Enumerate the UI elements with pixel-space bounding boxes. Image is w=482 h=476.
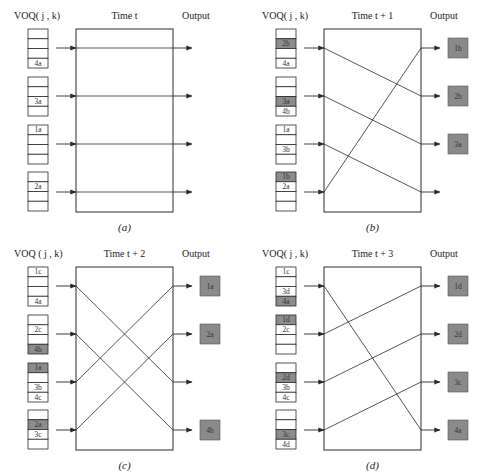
voq-input-2: 3a	[28, 77, 48, 116]
output-packet-label: 2a	[206, 330, 214, 339]
panel-a: VOQ( j , k)Time tOutput4a3a1a2a(a)	[14, 10, 210, 234]
cell-label: 3b	[282, 145, 290, 154]
output-label: Output	[182, 10, 210, 21]
queue-cell	[28, 192, 48, 202]
time-label: Time t	[111, 10, 137, 21]
cell-label: 3c	[34, 430, 42, 439]
queue-cell	[28, 135, 48, 145]
voq-input-3: 1a	[28, 125, 48, 164]
cell-label: 2c	[34, 325, 42, 334]
queue-cell	[276, 344, 296, 354]
panel-caption: (a)	[118, 221, 131, 234]
queue-cell	[28, 29, 48, 39]
output-packet-label: 1d	[454, 282, 462, 291]
crossbar-connection	[324, 48, 421, 96]
cell-label: 1c	[34, 267, 42, 276]
cell-label: 3c	[282, 430, 290, 439]
voq-input-3: 1a3b	[276, 125, 296, 164]
queue-cell	[276, 335, 296, 345]
voq-scheduling-figure: VOQ( j , k)Time tOutput4a3a1a2a(a)VOQ( j…	[0, 0, 482, 476]
cell-label: 3b	[34, 383, 42, 392]
queue-cell	[28, 77, 48, 87]
output-packet-label: 1a	[206, 282, 214, 291]
output-label: Output	[182, 248, 210, 259]
queue-cell	[28, 201, 48, 211]
queue-cell	[276, 201, 296, 211]
voq-input-1: 2b4a	[276, 29, 296, 68]
crossbar-connection	[324, 144, 421, 192]
voq-input-4: 3c4d	[276, 410, 296, 449]
cell-label: 1a	[34, 125, 42, 134]
panel-caption: (d)	[366, 459, 379, 472]
queue-cell	[276, 49, 296, 59]
queue-cell	[276, 29, 296, 39]
cell-label: 4a	[282, 297, 290, 306]
cell-label: 3a	[282, 97, 290, 106]
cell-label: 2a	[282, 182, 290, 191]
cell-label: 1b	[282, 172, 290, 181]
output-packet-label: 2b	[454, 92, 462, 101]
cell-label: 4a	[34, 297, 42, 306]
queue-cell	[28, 277, 48, 287]
queue-cell	[28, 145, 48, 155]
cell-label: 4b	[282, 107, 290, 116]
cell-label: 2b	[282, 39, 290, 48]
voq-input-1: 4a	[28, 29, 48, 68]
time-label: Time t + 2	[104, 248, 146, 259]
queue-cell	[28, 154, 48, 164]
queue-cell	[28, 335, 48, 345]
output-label: Output	[430, 248, 458, 259]
voq-input-2: 2c4b	[28, 315, 48, 354]
queue-cell	[28, 410, 48, 420]
output-packet-label: 4a	[454, 426, 462, 435]
voq-input-4: 2a3c	[28, 410, 48, 449]
time-label: Time t + 3	[352, 248, 394, 259]
cell-label: 4a	[34, 59, 42, 68]
cell-label: 3a	[34, 97, 42, 106]
voq-input-2: 3a4b	[276, 77, 296, 116]
time-label: Time t + 1	[352, 10, 394, 21]
queue-cell	[276, 87, 296, 97]
voq-label: VOQ( j , k)	[14, 10, 60, 22]
cell-label: 2a	[34, 182, 42, 191]
queue-cell	[28, 172, 48, 182]
queue-cell	[28, 87, 48, 97]
queue-cell	[276, 192, 296, 202]
voq-input-3: 2d3b4c	[276, 363, 296, 402]
panel-caption: (b)	[366, 221, 379, 234]
cell-label: 4a	[282, 59, 290, 68]
cell-label: 4c	[282, 393, 290, 402]
cell-label: 1a	[34, 363, 42, 372]
queue-cell	[276, 363, 296, 373]
cell-label: 1d	[282, 315, 290, 324]
cell-label: 4d	[282, 440, 290, 449]
voq-label: VOQ ( j , k)	[14, 248, 63, 260]
queue-cell	[276, 77, 296, 87]
voq-input-1: 1c4a	[28, 267, 48, 306]
cell-label: 4b	[34, 345, 42, 354]
voq-input-1: 1c3d4a	[276, 267, 296, 306]
switch-fabric	[76, 29, 173, 212]
queue-cell	[28, 106, 48, 116]
output-packet-label: 1b	[454, 44, 462, 53]
queue-cell	[276, 135, 296, 145]
voq-label: VOQ( j , k)	[262, 10, 308, 22]
output-packet-label: 3c	[454, 378, 462, 387]
voq-label: VOQ( j , k)	[262, 248, 308, 260]
voq-input-4: 1b2a	[276, 172, 296, 211]
cell-label: 1c	[282, 267, 290, 276]
panel-d: VOQ( j , k)Time t + 3Output1c3d4a1d2c2d3…	[262, 248, 468, 472]
queue-cell	[28, 315, 48, 325]
output-packet-label: 2d	[454, 330, 462, 339]
crossbar-connection	[324, 286, 421, 334]
cell-label: 1a	[282, 125, 290, 134]
crossbar-connection	[324, 48, 421, 192]
queue-cell	[276, 154, 296, 164]
crossbar-connection	[324, 334, 421, 382]
voq-input-2: 1d2c	[276, 315, 296, 354]
output-packet-label: 4b	[206, 426, 214, 435]
panel-b: VOQ( j , k)Time t + 1Output2b4a3a4b1a3b1…	[262, 10, 468, 234]
queue-cell	[28, 39, 48, 49]
queue-cell	[28, 439, 48, 449]
cell-label: 2c	[282, 325, 290, 334]
